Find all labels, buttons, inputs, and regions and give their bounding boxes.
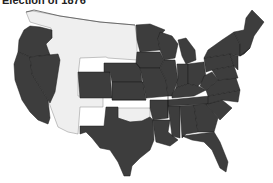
state-arkansas	[150, 100, 168, 120]
us-election-map	[0, 0, 273, 183]
state-florida	[182, 132, 228, 172]
state-new-york	[204, 32, 240, 58]
state-kansas	[112, 82, 146, 100]
state-colorado	[78, 72, 112, 98]
state-oregon	[18, 26, 52, 57]
state-michigan	[178, 38, 196, 64]
state-iowa	[136, 52, 164, 68]
